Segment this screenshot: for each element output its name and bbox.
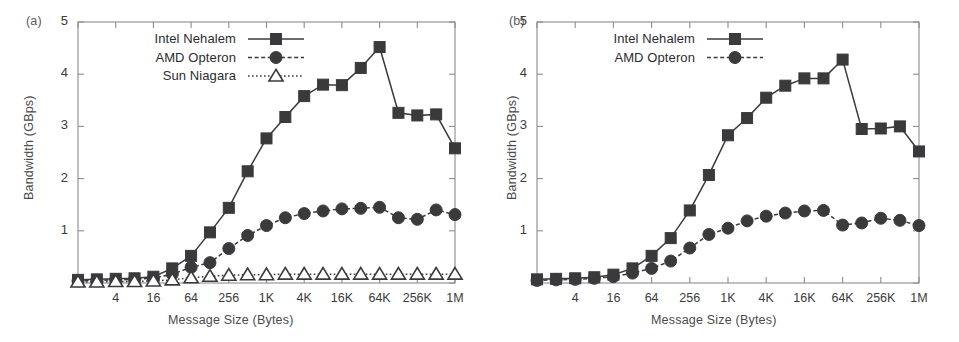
legend-label: Intel Nehalem	[66, 31, 236, 46]
y-tick-label: 2	[507, 170, 527, 185]
figure-root: (a) Bandwidth (GBps) Message Size (Bytes…	[0, 0, 959, 342]
x-tick-label: 1M	[889, 291, 949, 305]
chart-panel-a: (a) Bandwidth (GBps) Message Size (Bytes…	[0, 0, 479, 342]
y-tick-label: 3	[507, 117, 527, 132]
legend-label: AMD Opteron	[66, 50, 236, 65]
legend-label: Sun Niagara	[66, 68, 236, 83]
y-tick-label: 5	[48, 13, 68, 28]
legend-label: Intel Nehalem	[525, 31, 695, 46]
y-tick-label: 1	[48, 222, 68, 237]
x-tick-label: 1M	[425, 291, 485, 305]
y-tick-label: 4	[507, 65, 527, 80]
y-tick-label: 4	[48, 65, 68, 80]
y-tick-label: 3	[48, 117, 68, 132]
legend-label: AMD Opteron	[525, 50, 695, 65]
y-tick-label: 2	[48, 170, 68, 185]
y-tick-label: 1	[507, 222, 527, 237]
y-tick-label: 5	[507, 13, 527, 28]
chart-panel-b: (b) Bandwidth (GBps) Message Size (Bytes…	[479, 0, 959, 342]
